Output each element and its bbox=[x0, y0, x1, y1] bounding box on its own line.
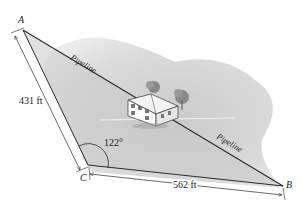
tick-C-bottom bbox=[89, 167, 90, 180]
tick-B bbox=[283, 188, 285, 200]
pipeline-diagram: A B C 431 ft 562 ft 122° Pipeline Pipeli… bbox=[0, 0, 301, 208]
angle-label-122: 122° bbox=[104, 137, 123, 148]
point-label-B: B bbox=[286, 179, 292, 190]
point-label-C: C bbox=[80, 172, 87, 183]
side-label-562: 562 ft bbox=[173, 179, 197, 190]
side-label-431: 431 ft bbox=[19, 95, 43, 106]
tick-A bbox=[11, 28, 24, 33]
point-label-A: A bbox=[17, 14, 25, 25]
